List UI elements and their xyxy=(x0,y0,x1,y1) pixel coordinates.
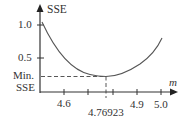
x-axis-label: m xyxy=(169,77,177,88)
min-sse-label-line2: SSE xyxy=(16,82,35,93)
y-axis-arrow-icon xyxy=(37,4,44,12)
x-axis-arrow-icon xyxy=(170,89,178,96)
y-tick-label-05: 0.5 xyxy=(18,52,32,63)
sse-curve xyxy=(42,22,162,77)
min-sse-label-line1: Min. xyxy=(13,70,34,81)
x-tick-label-min: 4.76923 xyxy=(88,107,124,118)
y-tick-label-1: 1.0 xyxy=(18,19,32,30)
x-tick-label-4.6: 4.6 xyxy=(57,98,71,109)
x-tick-label-5.0: 5.0 xyxy=(154,99,168,110)
y-axis-label: SSE xyxy=(47,4,67,15)
x-tick-label-4.9: 4.9 xyxy=(130,99,144,110)
